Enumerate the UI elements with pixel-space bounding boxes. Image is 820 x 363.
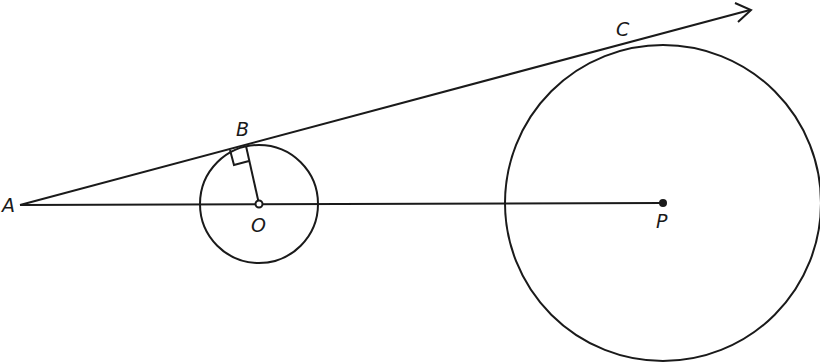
center-o-dot (256, 201, 263, 208)
right-angle-mark (230, 150, 249, 165)
radius-ob (246, 146, 259, 204)
label-o: O (251, 216, 266, 235)
label-b: B (236, 120, 249, 139)
center-p-dot (659, 199, 667, 207)
diagram-canvas (0, 0, 820, 363)
line-a-to-p (20, 203, 663, 205)
label-p: P (656, 212, 667, 231)
geometry-diagram: A B C O P (0, 0, 820, 363)
tangent-ray-abc (20, 10, 750, 205)
label-c: C (616, 20, 629, 39)
label-a: A (2, 196, 15, 215)
